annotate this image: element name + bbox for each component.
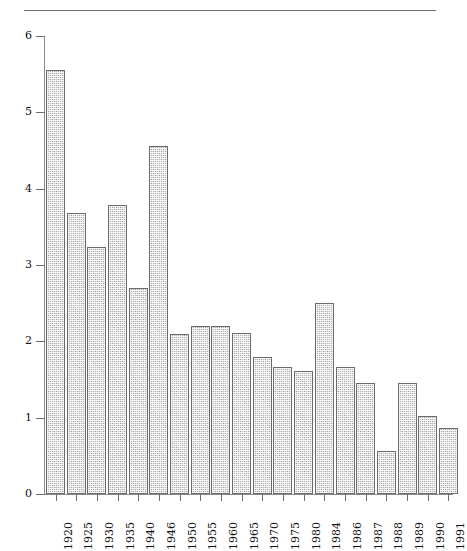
y-axis-tick-label: 5 [0, 106, 32, 118]
x-axis-tick [56, 494, 57, 501]
y-axis-tick-label-text: 3 [2, 259, 32, 270]
y-axis-tick-label: 3 [0, 259, 32, 271]
bar-1987 [356, 383, 375, 494]
bar-1991 [439, 428, 458, 494]
x-axis-tick [386, 494, 387, 501]
x-axis-label-1987: 1987 [372, 504, 385, 550]
bar-1975 [273, 367, 292, 494]
y-axis-tick [36, 494, 45, 495]
x-axis-label-1946: 1946 [165, 504, 178, 550]
bar-1988 [377, 451, 396, 494]
y-axis-tick [36, 112, 45, 113]
y-axis-tick-label: 2 [0, 335, 32, 347]
x-axis-label-1989: 1989 [413, 504, 426, 550]
bar-1935 [108, 205, 127, 494]
x-axis-label-1965: 1965 [248, 504, 261, 550]
x-axis-tick [448, 494, 449, 501]
bar-1989 [398, 383, 417, 494]
x-axis-tick [180, 494, 181, 501]
x-axis-tick [407, 494, 408, 501]
x-axis-label-1990: 1990 [434, 504, 447, 550]
bar-1960 [211, 326, 230, 494]
y-axis-tick-label: 6 [0, 30, 32, 42]
bar-1970 [253, 357, 272, 494]
bar-1990 [418, 416, 437, 494]
x-axis-label-1955: 1955 [206, 504, 219, 550]
x-axis-label-1920: 1920 [62, 504, 75, 550]
x-axis-label-1986: 1986 [351, 504, 364, 550]
x-axis-label-1925: 1925 [82, 504, 95, 550]
x-axis-label-1988: 1988 [392, 504, 405, 550]
x-axis-label-1935: 1935 [124, 504, 137, 550]
y-axis-tick-label-text: 5 [2, 106, 32, 117]
y-axis-tick-label: 1 [0, 412, 32, 424]
x-axis-tick [97, 494, 98, 501]
y-axis-tick-label-text: 2 [2, 335, 32, 346]
y-axis-tick-label-text: 1 [2, 412, 32, 423]
bar-1986 [336, 367, 355, 494]
bar-1965 [232, 333, 251, 494]
x-axis-tick [221, 494, 222, 501]
y-axis-tick [36, 265, 45, 266]
x-axis-tick [200, 494, 201, 501]
bar-1940 [129, 288, 148, 494]
x-axis-line [44, 494, 453, 495]
x-axis-tick [283, 494, 284, 501]
bar-1950 [170, 334, 189, 494]
bar-1984 [315, 303, 334, 494]
x-axis-tick [345, 494, 346, 501]
x-axis-tick [262, 494, 263, 501]
x-axis-tick [242, 494, 243, 501]
x-axis-tick [428, 494, 429, 501]
bar-1955 [191, 326, 210, 494]
x-axis-label-1960: 1960 [227, 504, 240, 550]
y-axis-tick [36, 418, 45, 419]
bar-1946 [149, 146, 168, 494]
x-axis-tick [366, 494, 367, 501]
x-axis-tick [118, 494, 119, 501]
x-axis-tick [138, 494, 139, 501]
y-axis-tick [36, 189, 45, 190]
y-axis-tick-label-text: 0 [2, 488, 32, 499]
x-axis-tick [324, 494, 325, 501]
bar-1920 [46, 70, 65, 494]
x-axis-label-1984: 1984 [330, 504, 343, 550]
x-axis-label-1930: 1930 [103, 504, 116, 550]
x-axis-label-1940: 1940 [144, 504, 157, 550]
x-axis-label-1991: 1991 [454, 504, 467, 550]
y-axis-tick-label-text: 4 [2, 183, 32, 194]
x-axis-label-1980: 1980 [310, 504, 323, 550]
y-axis-tick-label-text: 6 [2, 30, 32, 41]
bar-1930 [87, 247, 106, 494]
x-axis-tick [159, 494, 160, 501]
y-axis-tick [36, 36, 45, 37]
x-axis-label-1975: 1975 [289, 504, 302, 550]
x-axis-label-1970: 1970 [268, 504, 281, 550]
x-axis-label-1950: 1950 [186, 504, 199, 550]
y-axis-tick [36, 341, 45, 342]
x-axis-tick [76, 494, 77, 501]
x-axis-tick [304, 494, 305, 501]
bar-1980 [294, 371, 313, 494]
bar-1925 [67, 213, 86, 494]
y-axis-tick-label: 0 [0, 488, 32, 500]
y-axis-tick-label: 4 [0, 183, 32, 195]
